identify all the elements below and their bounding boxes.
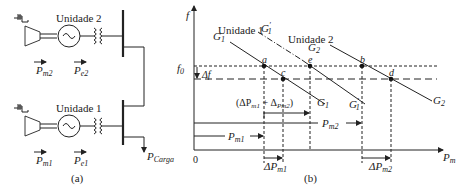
pm2-label: Pm2	[35, 64, 53, 78]
dpm2-label: ΔPm2	[368, 160, 392, 174]
generator-icon	[58, 25, 80, 47]
curve-g2	[330, 45, 432, 101]
x-axis-label: Pm	[442, 151, 456, 165]
point-c-label: c	[281, 67, 286, 78]
load-arrow	[123, 137, 144, 152]
caption-a: (a)	[71, 172, 84, 185]
panel-b: f Pm 0 f0 Δf Unidade 1 Unidade 2 G1 G′1 …	[177, 6, 456, 185]
shaft	[40, 124, 57, 128]
y-axis-label: f	[186, 9, 191, 21]
transformer-icon	[94, 28, 102, 44]
load-label: PCarga	[146, 150, 174, 164]
pm1-label: Pm1	[35, 154, 53, 168]
f0-label: f0	[177, 62, 184, 76]
point-b-label: b	[360, 54, 365, 65]
dpm1-label: ΔPm1	[263, 160, 287, 174]
g1-label-bottom: G1	[317, 96, 329, 110]
tie-line	[123, 47, 144, 106]
g2-label-bottom: G2	[433, 94, 445, 108]
point-d-label: d	[389, 67, 395, 78]
transformer-icon	[94, 118, 102, 134]
delta-f-label: Δf	[201, 69, 212, 80]
unit-1: Unidade 1 Pm1 Pe1	[14, 102, 123, 168]
pe2-label: Pe2	[73, 64, 88, 78]
g1prime-label-bottom: G′1	[349, 97, 360, 112]
generator-icon	[58, 115, 80, 137]
sum-delta-arrow	[264, 112, 309, 118]
turbine-icon	[14, 104, 40, 136]
point-a-label: a	[262, 54, 267, 65]
unit-2: Unidade 2 Pm2 Pe2	[14, 12, 123, 78]
pe1-label: Pe1	[73, 154, 88, 168]
unit-1-label: Unidade 1	[56, 102, 102, 114]
g1prime-label-top: G′1	[261, 21, 272, 36]
unit-2-label: Unidade 2	[56, 12, 102, 24]
origin-label: 0	[193, 154, 198, 165]
point-e-label: e	[308, 54, 313, 65]
shaft	[40, 34, 57, 38]
panel-a: Unidade 2 Pm2 Pe2 U	[14, 10, 174, 185]
turbine-icon	[14, 14, 40, 46]
caption-b: (b)	[304, 172, 317, 185]
sum-delta-label: (ΔPm1 + ΔPm2)	[236, 97, 293, 110]
diagram-canvas: Unidade 2 Pm2 Pe2 U	[0, 0, 463, 192]
operating-points: a c e b d	[262, 54, 395, 81]
